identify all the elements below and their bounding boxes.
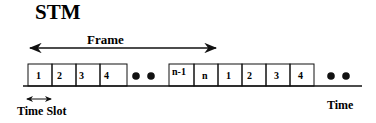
slot-label: n [202, 70, 208, 81]
slot-label: n-1 [172, 66, 186, 77]
slot-box [242, 64, 266, 86]
ellipsis-dot [132, 72, 140, 80]
frame-label: Frame [87, 32, 124, 47]
slot-box [52, 64, 76, 86]
slot-label: 2 [247, 70, 252, 81]
time-slot-label: Time Slot [17, 104, 66, 118]
ellipsis-dot [342, 72, 350, 80]
slot-label: 4 [104, 70, 109, 81]
slot-group-2 [169, 64, 314, 86]
slot-label: 1 [226, 70, 231, 81]
ellipsis-dot [147, 72, 155, 80]
slot-label: 2 [57, 70, 62, 81]
slot-label: 3 [274, 70, 279, 81]
slot-group-1 [28, 64, 127, 86]
time-label: Time [327, 98, 354, 112]
slot-label: 1 [36, 70, 41, 81]
ellipsis-dot [327, 72, 335, 80]
slot-label: 4 [298, 70, 303, 81]
stm-diagram: STM Frame 1 2 3 4 n-1 n 1 2 3 4 Time Slo… [0, 0, 376, 123]
diagram-title: STM [35, 0, 81, 24]
slot-label: 3 [79, 70, 84, 81]
